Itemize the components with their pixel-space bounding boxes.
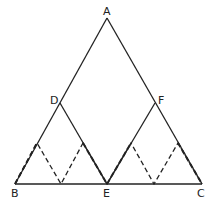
label-A: A (103, 5, 111, 18)
triangle-diagram: A D F B E C (0, 0, 215, 203)
dashed-zigzag (15, 143, 202, 184)
label-D: D (50, 94, 58, 107)
label-E: E (103, 187, 110, 200)
label-F: F (158, 94, 164, 107)
label-B: B (11, 187, 19, 200)
label-C: C (197, 187, 205, 200)
